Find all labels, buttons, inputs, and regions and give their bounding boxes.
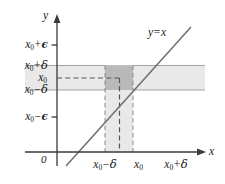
- x-tick-symbol: δ: [110, 157, 117, 171]
- x-tick-label-x0-plus-delta: x0+δ: [164, 159, 187, 171]
- y-tick-label-x0-minus-epsilon: x0−ϵ: [0, 111, 48, 123]
- y-tick-op: +: [34, 38, 42, 50]
- y-tick-op: −: [34, 83, 42, 95]
- identity-line-label: y=x: [148, 27, 166, 39]
- y-tick-symbol: δ: [41, 58, 48, 72]
- x-axis-label: x: [209, 146, 214, 158]
- x-tick-label-x0: x0: [134, 159, 144, 171]
- curve-label-equals: =: [153, 26, 161, 38]
- x-axis-arrow-icon: [197, 149, 206, 156]
- y-tick-symbol: ϵ: [42, 110, 48, 122]
- curve-label-x: x: [161, 26, 166, 38]
- y-axis-label: y: [43, 10, 48, 22]
- x-tick-op: [143, 158, 144, 170]
- epsilon-delta-figure: x0+ϵ x0+δ x0 x0−δ x0−ϵ x0−δ x0 x0+δ y x …: [0, 0, 225, 184]
- x-tick-symbol: δ: [181, 157, 188, 171]
- x-tick-label-x0-minus-delta: x0−δ: [93, 159, 116, 171]
- y-tick-symbol: δ: [41, 82, 48, 96]
- y-tick-sub: 0: [30, 88, 34, 97]
- y-tick-symbol: ϵ: [42, 38, 48, 50]
- y-tick-label-x0-plus-epsilon: x0+ϵ: [0, 39, 48, 51]
- y-tick-label-x0-minus-delta: x0−δ: [0, 84, 48, 96]
- origin-label: 0: [41, 154, 47, 165]
- y-axis-arrow-icon: [54, 14, 61, 23]
- y-tick-op: +: [34, 59, 42, 71]
- y-tick-op: −: [34, 110, 42, 122]
